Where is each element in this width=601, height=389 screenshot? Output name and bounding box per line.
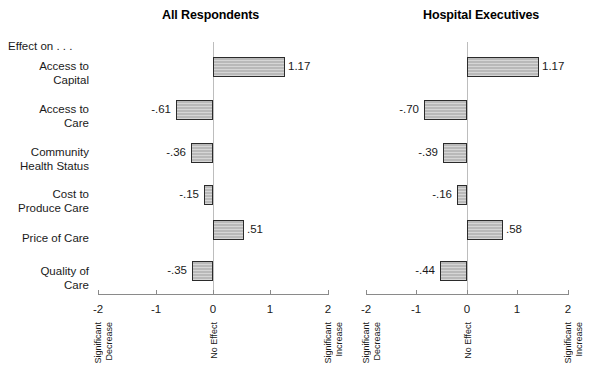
x-axis-tick xyxy=(366,290,367,295)
axis-annotation-significant-decrease-line1: Significant xyxy=(361,322,371,364)
bar-value-price-of-care: .58 xyxy=(506,223,522,235)
bar-value-access-to-capital: 1.17 xyxy=(542,60,564,72)
x-axis-tick xyxy=(416,290,417,295)
bar-quality-of-care xyxy=(440,261,467,281)
x-axis-tick xyxy=(467,290,468,295)
bar-community-health-status xyxy=(443,143,467,163)
bar-value-access-to-care: -.70 xyxy=(374,103,419,115)
x-axis-tick xyxy=(517,290,518,295)
bar-value-cost-to-produce-care: -.16 xyxy=(407,188,452,200)
bar-price-of-care xyxy=(467,220,503,240)
x-tick-label: 0 xyxy=(455,303,479,315)
chart-figure: All Respondents Hospital Executives Effe… xyxy=(0,0,601,389)
axis-annotation-significant-increase-line2: Increase xyxy=(574,322,584,357)
axis-annotation-no-effect: No Effect xyxy=(463,322,473,359)
bar-value-quality-of-care: -.44 xyxy=(390,264,435,276)
zero-reference-line xyxy=(467,42,468,294)
bar-value-community-health-status: -.39 xyxy=(393,146,438,158)
bar-cost-to-produce-care xyxy=(457,185,467,205)
bar-access-to-care xyxy=(424,100,467,120)
axis-annotation-significant-decrease-line2: Decrease xyxy=(372,322,382,361)
x-tick-label: 2 xyxy=(556,303,580,315)
x-tick-label: 1 xyxy=(505,303,529,315)
x-tick-label: -1 xyxy=(404,303,428,315)
panel-hospital-executives: 1.17 -.70 -.39 -.16 .58 -.44 -2 -1 0 1 2… xyxy=(0,0,601,389)
x-tick-label: -2 xyxy=(354,303,378,315)
x-axis-tick xyxy=(568,290,569,295)
axis-annotation-significant-increase-line1: Significant xyxy=(563,322,573,364)
bar-access-to-capital xyxy=(467,57,539,77)
